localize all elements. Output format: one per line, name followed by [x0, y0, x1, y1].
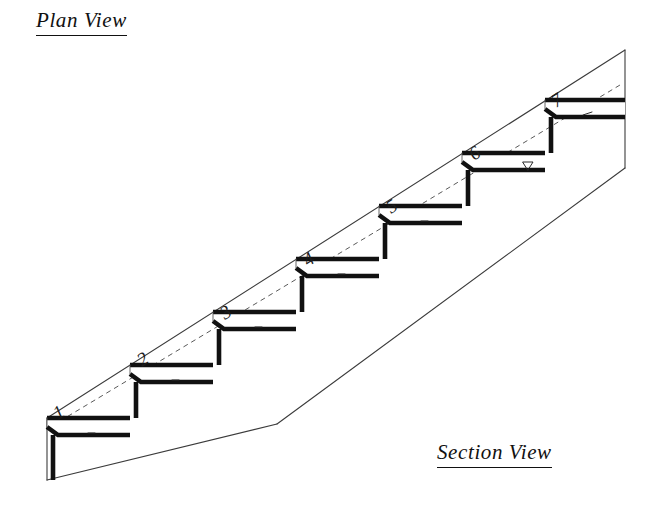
plan-view-title: Plan View	[36, 8, 127, 36]
stair-drawing-canvas: 1 2 3 4 5 6 7 Plan View Section View	[0, 0, 659, 509]
stair-technical-drawing: 1 2 3 4 5 6 7	[0, 0, 659, 509]
section-view-title: Section View	[437, 440, 552, 468]
